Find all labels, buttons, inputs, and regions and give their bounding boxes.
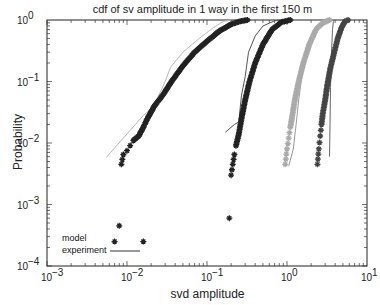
plot-area: 10−310−210−110010110010−110−210−310−4 xyxy=(0,0,380,305)
model-marker xyxy=(318,127,324,133)
model-marker xyxy=(230,161,236,167)
y-tick-label: 10 xyxy=(17,261,29,272)
model-marker xyxy=(287,130,293,136)
model-marker xyxy=(316,146,322,152)
y-tick-label: 10 xyxy=(17,15,29,26)
model-marker xyxy=(229,167,235,173)
model-marker xyxy=(315,151,321,157)
x-tick-exponent: −2 xyxy=(132,267,144,278)
model-marker xyxy=(317,133,323,139)
y-tick-label: 10 xyxy=(17,138,29,149)
legend-experiment-label: experiment xyxy=(62,245,107,255)
x-tick-exponent: 0 xyxy=(292,267,298,278)
x-tick-label: 10 xyxy=(281,272,293,283)
y-tick-exponent: −4 xyxy=(28,256,40,267)
model-marker xyxy=(231,152,237,158)
model-marker xyxy=(282,161,288,167)
model-marker xyxy=(228,172,234,178)
model-marker xyxy=(285,141,291,147)
model-marker xyxy=(315,156,321,162)
chart-container: cdf of sv amplitude in 1 way in the firs… xyxy=(0,0,380,305)
x-tick-exponent: 1 xyxy=(372,267,378,278)
model-marker xyxy=(283,156,289,162)
experiment-line xyxy=(330,20,335,157)
x-tick-label: 10 xyxy=(121,272,133,283)
model-marker xyxy=(112,239,118,245)
x-tick-label: 10 xyxy=(361,272,373,283)
x-tick-exponent: −3 xyxy=(52,267,64,278)
model-marker xyxy=(286,135,292,141)
x-tick-label: 10 xyxy=(201,272,213,283)
model-marker xyxy=(231,156,237,162)
legend-model-label: model xyxy=(62,233,87,243)
y-tick-label: 10 xyxy=(17,200,29,211)
model-marker xyxy=(119,156,125,162)
model-marker xyxy=(116,223,122,229)
model-marker xyxy=(314,161,320,167)
y-tick-exponent: −3 xyxy=(28,195,40,206)
model-marker xyxy=(127,143,133,149)
model-marker xyxy=(284,146,290,152)
y-tick-exponent: −1 xyxy=(28,72,40,83)
model-marker xyxy=(118,161,124,167)
model-marker xyxy=(283,151,289,157)
y-tick-exponent: −2 xyxy=(28,133,40,144)
x-tick-exponent: −1 xyxy=(212,267,224,278)
y-tick-label: 10 xyxy=(17,77,29,88)
model-marker xyxy=(140,239,146,245)
model-marker xyxy=(317,139,323,145)
model-marker xyxy=(226,215,232,221)
x-tick-label: 10 xyxy=(41,272,53,283)
y-tick-exponent: 0 xyxy=(28,10,34,21)
experiment-line xyxy=(225,20,283,132)
